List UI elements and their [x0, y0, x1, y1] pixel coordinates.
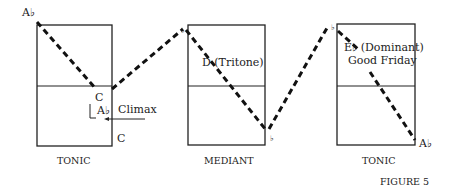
- panel-tonic-2: ♭ E♭ (Dominant) Good Friday A♭ TONIC: [331, 23, 432, 166]
- dashed-path-segment: [186, 30, 266, 130]
- note-top: ♭: [331, 23, 335, 32]
- panel-box: [188, 25, 265, 145]
- dashed-path-segment: [37, 22, 96, 89]
- figure-caption: FIGURE 5: [380, 176, 429, 187]
- panel-label: MEDIANT: [204, 155, 254, 166]
- panel-label: TONIC: [57, 155, 90, 166]
- bracket-icon: [90, 104, 96, 118]
- panel-mediant: ♭ D (Tritone) ♭ MEDIANT: [181, 25, 274, 166]
- dashed-path-segment: [112, 29, 183, 89]
- panel-tonic-1: A♭ C A♭ C Climax TONIC: [21, 6, 157, 166]
- panel-text-line2: Good Friday: [348, 54, 418, 67]
- note-top: A♭: [21, 6, 35, 19]
- note-inner: A♭: [96, 104, 110, 117]
- note-bottom: A♭: [418, 137, 432, 150]
- note-mid: C: [95, 91, 103, 104]
- dashed-path-segment: [370, 72, 415, 140]
- figure-diagram: A♭ C A♭ C Climax TONIC ♭ D (Tritone) ♭ M…: [0, 0, 455, 188]
- arrow-head-icon: [104, 117, 109, 121]
- climax-label: Climax: [118, 103, 157, 116]
- note-bottom: C: [117, 132, 125, 145]
- panel-label: TONIC: [362, 155, 395, 166]
- dashed-path-segment: [269, 28, 327, 129]
- note-bottom: ♭: [270, 134, 274, 143]
